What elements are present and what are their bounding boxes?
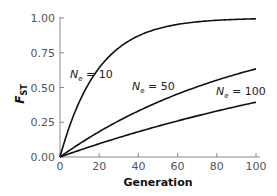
y-axis-label: FST [13,84,29,104]
annotation-ne-10: Ne = 10 [70,68,113,83]
x-tick-label: 0 [57,160,64,173]
x-tick-label: 20 [92,160,106,173]
x-tick-label: 40 [131,160,145,173]
x-tick-label: 80 [210,160,224,173]
y-tick-label: 0.00 [31,151,56,164]
annotation-ne-50: Ne = 50 [132,80,175,95]
x-axis-label: Generation [123,176,192,189]
curve-ne-100 [60,102,256,157]
y-tick-label: 0.50 [31,82,56,95]
y-tick-label: 0.75 [31,47,56,60]
x-tick-label: 60 [171,160,185,173]
fst-line-chart: 0.000.250.500.751.00020406080100 Generat… [0,0,277,196]
x-tick-label: 100 [246,160,267,173]
annotation-ne-100: Ne = 100 [216,85,266,100]
y-tick-label: 0.25 [31,116,56,129]
y-tick-label: 1.00 [31,12,56,25]
